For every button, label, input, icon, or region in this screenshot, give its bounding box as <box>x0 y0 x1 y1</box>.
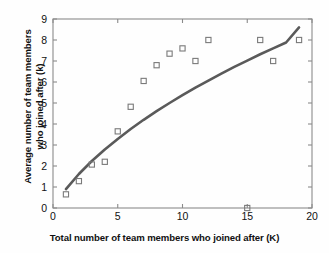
data-point <box>128 104 133 109</box>
data-point-markers <box>63 37 301 210</box>
data-point <box>102 159 107 164</box>
plot-area <box>0 0 329 253</box>
data-point <box>193 58 198 63</box>
data-point <box>167 51 172 56</box>
chart-figure: Average number of team members who joine… <box>0 0 329 253</box>
data-point <box>63 192 68 197</box>
data-point <box>296 37 301 42</box>
data-point <box>180 46 185 51</box>
data-point <box>141 78 146 83</box>
data-point <box>271 58 276 63</box>
trend-line <box>66 27 299 189</box>
data-point <box>258 37 263 42</box>
data-point <box>115 129 120 134</box>
data-point <box>76 179 81 184</box>
data-point <box>154 63 159 68</box>
data-point <box>206 37 211 42</box>
